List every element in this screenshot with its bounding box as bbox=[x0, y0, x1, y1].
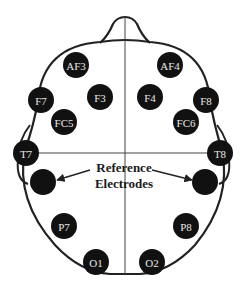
electrode-marker bbox=[192, 169, 218, 195]
electrode-label: FC5 bbox=[55, 117, 74, 129]
electrode-label: P7 bbox=[58, 221, 70, 233]
electrode-label: F7 bbox=[35, 95, 47, 107]
electrode-af4: AF4 bbox=[157, 52, 183, 78]
electrode-label: AF4 bbox=[160, 60, 180, 72]
electrode-marker bbox=[30, 169, 56, 195]
electrode-label: T8 bbox=[214, 148, 227, 160]
electrode-t7: T7 bbox=[13, 140, 39, 166]
electrode-o2: O2 bbox=[139, 249, 165, 275]
electrode-o1: O1 bbox=[83, 249, 109, 275]
electrode-fc6: FC6 bbox=[173, 109, 199, 135]
eeg-head-diagram: AF3AF4F7F3F4F8FC5FC6T7T8P7P8O1O2 Referen… bbox=[0, 0, 247, 288]
arrow-right bbox=[152, 170, 192, 180]
annotation-line1: Reference bbox=[96, 160, 152, 175]
electrode-f7: F7 bbox=[28, 87, 54, 113]
electrode-label: AF3 bbox=[66, 60, 86, 72]
electrode-ref-l bbox=[30, 169, 56, 195]
electrode-label: F8 bbox=[200, 95, 212, 107]
electrode-ref-r bbox=[192, 169, 218, 195]
electrode-af3: AF3 bbox=[63, 52, 89, 78]
electrode-p7: P7 bbox=[51, 213, 77, 239]
electrode-t8: T8 bbox=[207, 140, 233, 166]
electrode-label: F3 bbox=[94, 92, 106, 104]
head-outline bbox=[23, 40, 224, 274]
electrode-fc5: FC5 bbox=[51, 109, 77, 135]
annotation-line2: Electrodes bbox=[95, 176, 153, 191]
electrode-label: T7 bbox=[20, 148, 33, 160]
electrode-f4: F4 bbox=[137, 84, 163, 110]
electrode-label: O2 bbox=[145, 257, 158, 269]
electrode-label: FC6 bbox=[177, 117, 196, 129]
electrode-f8: F8 bbox=[193, 87, 219, 113]
electrode-p8: P8 bbox=[173, 213, 199, 239]
electrode-f3: F3 bbox=[87, 84, 113, 110]
electrode-label: O1 bbox=[89, 257, 102, 269]
arrow-left bbox=[57, 170, 90, 180]
electrode-label: F4 bbox=[144, 92, 156, 104]
electrode-label: P8 bbox=[180, 221, 192, 233]
